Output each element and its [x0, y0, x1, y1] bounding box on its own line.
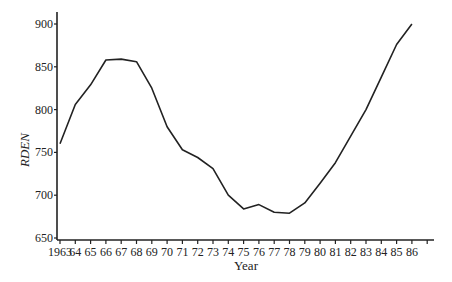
- x-tick-label: 82: [345, 245, 357, 259]
- rden-series-line: [60, 24, 412, 213]
- x-tick-label: 75: [238, 245, 250, 259]
- x-tick-label: 77: [268, 245, 280, 259]
- x-tick-label: 81: [329, 245, 341, 259]
- y-tick-label: 700: [35, 188, 53, 202]
- x-tick-label: 84: [375, 245, 387, 259]
- y-axis-ticks: 650700750800850900: [35, 17, 57, 245]
- x-tick-label: 80: [314, 245, 326, 259]
- y-tick-label: 750: [35, 145, 53, 159]
- y-tick-label: 900: [35, 17, 53, 31]
- x-tick-label: 69: [146, 245, 158, 259]
- x-tick-label: 70: [161, 245, 173, 259]
- x-tick-label: 65: [85, 245, 97, 259]
- x-tick-label: 72: [192, 245, 204, 259]
- x-tick-label: 68: [131, 245, 143, 259]
- x-tick-label: 67: [115, 245, 127, 259]
- x-axis-label: Year: [234, 258, 259, 273]
- y-tick-label: 800: [35, 103, 53, 117]
- y-tick-label: 850: [35, 60, 53, 74]
- x-tick-label: 64: [69, 245, 81, 259]
- x-tick-label: 86: [406, 245, 418, 259]
- x-tick-label: 66: [100, 245, 112, 259]
- x-tick-label: 85: [391, 245, 403, 259]
- x-tick-label: 74: [222, 245, 234, 259]
- x-tick-label: 78: [284, 245, 296, 259]
- y-axis-label: RDEN: [17, 132, 32, 168]
- x-tick-label: 79: [299, 245, 311, 259]
- x-tick-label: 83: [360, 245, 372, 259]
- axes: [57, 12, 434, 240]
- x-tick-label: 71: [176, 245, 188, 259]
- rden-line-chart: 650700750800850900 196364656667686970717…: [0, 0, 452, 282]
- x-tick-label: 76: [253, 245, 265, 259]
- x-tick-label: 73: [207, 245, 219, 259]
- y-tick-label: 650: [35, 231, 53, 245]
- x-axis-ticks: 1963646566676869707172737475767778798081…: [48, 240, 427, 259]
